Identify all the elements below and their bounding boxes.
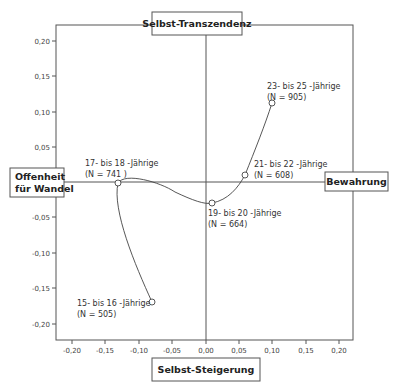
point-n-label: (N = 905)	[267, 93, 306, 102]
x-tick-label: -0,20	[63, 347, 81, 355]
y-tick-label: -0,10	[32, 250, 50, 258]
left-axis-label-box: Offenheit für Wandel	[10, 168, 74, 197]
y-tick-label: -0,20	[32, 321, 50, 329]
point-n-label: (N = 608)	[254, 171, 293, 180]
y-tick-label: 0,05	[34, 144, 50, 152]
left-axis-label-line1: Offenheit	[15, 171, 65, 182]
y-tick-label: -0,15	[32, 285, 50, 293]
point-label: 21- bis 22 -Jährige	[254, 160, 328, 169]
y-tick-label: -0,05	[32, 214, 50, 222]
x-axis: -0,20 -0,15 -0,10 -0,05 0,00 0,05 0,10 0…	[63, 340, 347, 355]
point-label: 19- bis 20 -Jährige	[208, 209, 282, 218]
data-point-17-18	[115, 180, 121, 186]
top-axis-label-box: Selbst-Transzendenz	[142, 12, 252, 35]
x-tick-label: 0,00	[198, 347, 214, 355]
trajectory-line	[117, 103, 272, 302]
x-tick-label: -0,10	[130, 347, 148, 355]
point-label: 23- bis 25 -Jährige	[267, 82, 341, 91]
x-tick-label: 0,05	[231, 347, 247, 355]
point-n-label: (N = 664)	[208, 220, 247, 229]
point-label: 15- bis 16 -Jährige	[77, 299, 151, 308]
chart-canvas: 0,20 0,15 0,10 0,05 -0,05 -0,10 -0,15 -0…	[0, 0, 398, 389]
left-axis-label-line2: für Wandel	[15, 183, 74, 194]
point-label: 17- bis 18 -Jährige	[85, 159, 159, 168]
x-tick-label: -0,15	[96, 347, 114, 355]
x-tick-label: -0,05	[163, 347, 181, 355]
data-point-21-22	[242, 172, 248, 178]
data-point-19-20	[209, 200, 215, 206]
x-tick-label: 0,15	[298, 347, 314, 355]
x-tick-label: 0,20	[331, 347, 347, 355]
y-tick-label: 0,10	[34, 109, 50, 117]
y-tick-label: 0,20	[34, 38, 50, 46]
point-n-label: (N = 741 )	[85, 170, 127, 179]
bottom-axis-label: Selbst-Steigerung	[158, 364, 255, 375]
right-axis-label-box: Bewahrung	[325, 172, 388, 191]
y-tick-label: 0,15	[34, 73, 50, 81]
x-tick-label: 0,10	[264, 347, 280, 355]
point-n-label: (N = 505)	[77, 310, 116, 319]
bottom-axis-label-box: Selbst-Steigerung	[152, 358, 260, 381]
top-axis-label: Selbst-Transzendenz	[142, 18, 252, 29]
right-axis-label: Bewahrung	[326, 176, 387, 187]
